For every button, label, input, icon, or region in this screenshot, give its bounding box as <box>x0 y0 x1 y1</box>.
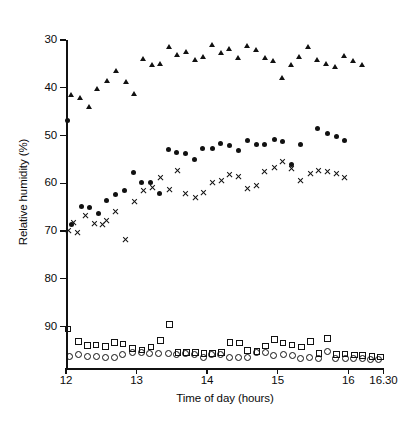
data-point-filled-triangle <box>157 61 163 66</box>
y-axis-tick <box>60 183 66 184</box>
data-point-open-circle <box>84 353 91 360</box>
data-point-cross <box>279 158 286 165</box>
data-point-open-square <box>148 344 155 351</box>
y-axis-tick-label: 30 <box>31 34 57 46</box>
data-point-filled-circle <box>210 146 215 151</box>
relative-humidity-scatter-chart: 30405060708090 121314151616.30 Relative … <box>0 0 419 424</box>
data-point-cross <box>324 168 331 175</box>
data-point-open-square <box>218 349 225 356</box>
data-point-open-square <box>262 343 269 350</box>
y-axis-tick-label: 70 <box>31 225 57 237</box>
data-point-cross <box>70 219 77 226</box>
data-point-filled-circle <box>227 143 232 148</box>
y-axis-tick-label: 60 <box>31 177 57 189</box>
data-point-open-square <box>342 351 349 358</box>
data-point-cross <box>182 190 189 197</box>
data-point-filled-circle <box>315 126 320 131</box>
data-point-filled-triangle <box>94 86 100 91</box>
data-point-open-square <box>102 343 109 350</box>
data-point-filled-circle <box>289 162 294 167</box>
data-point-cross <box>244 185 251 192</box>
data-point-filled-circle <box>174 150 179 155</box>
data-point-filled-triangle <box>359 62 365 67</box>
plot-area <box>0 0 419 424</box>
data-point-open-circle <box>367 356 374 363</box>
data-point-cross <box>131 198 138 205</box>
data-point-cross <box>218 177 225 184</box>
data-point-cross <box>166 186 173 193</box>
y-axis-title: Relative humidity (%) <box>17 127 29 257</box>
data-point-open-circle <box>102 354 109 361</box>
data-point-open-square <box>377 354 384 361</box>
data-point-open-square <box>289 342 296 349</box>
data-point-filled-circle <box>113 192 118 197</box>
data-point-cross <box>103 217 110 224</box>
y-axis-tick <box>60 326 66 327</box>
data-point-open-circle <box>208 351 215 358</box>
data-point-filled-circle <box>183 151 188 156</box>
data-point-open-circle <box>235 354 242 361</box>
data-point-filled-circle <box>342 138 347 143</box>
data-point-open-square <box>369 353 376 360</box>
y-axis-tick <box>60 230 66 231</box>
data-point-filled-circle <box>157 191 162 196</box>
data-point-open-square <box>157 337 164 344</box>
data-point-cross <box>82 212 89 219</box>
data-point-open-circle <box>226 354 233 361</box>
data-point-open-circle <box>289 352 296 359</box>
data-point-filled-triangle <box>296 54 302 59</box>
x-axis-tick-label: 15 <box>253 375 303 387</box>
data-point-open-circle <box>129 349 136 356</box>
y-axis-tick <box>60 39 66 40</box>
data-point-open-circle <box>375 356 382 363</box>
data-point-filled-circle <box>96 211 101 216</box>
data-point-filled-triangle <box>68 92 74 97</box>
data-point-filled-triangle <box>350 58 356 63</box>
data-point-open-circle <box>306 354 313 361</box>
data-point-filled-circle <box>122 188 127 193</box>
data-point-open-square <box>183 349 190 356</box>
data-point-filled-circle <box>334 134 339 139</box>
data-point-open-circle <box>146 350 153 357</box>
data-point-cross <box>288 165 295 172</box>
data-point-open-square <box>201 350 208 357</box>
data-point-cross <box>226 171 233 178</box>
data-point-filled-circle <box>325 131 330 136</box>
data-point-filled-circle <box>69 222 74 227</box>
data-point-open-square <box>333 351 340 358</box>
data-point-filled-circle <box>245 138 250 143</box>
data-point-open-circle <box>244 354 251 361</box>
data-point-filled-triangle <box>140 56 146 61</box>
data-point-cross <box>307 170 314 177</box>
data-point-cross <box>333 170 340 177</box>
data-point-cross <box>341 174 348 181</box>
data-point-filled-triangle <box>131 91 137 96</box>
data-point-filled-circle <box>192 157 197 162</box>
data-point-filled-triangle <box>218 50 224 55</box>
data-point-filled-circle <box>272 137 277 142</box>
data-point-cross <box>74 229 81 236</box>
data-point-filled-triangle <box>183 49 189 54</box>
data-point-open-circle <box>297 355 304 362</box>
x-axis-tick-label: 13 <box>112 375 162 387</box>
data-point-open-circle <box>119 351 126 358</box>
data-point-filled-triangle <box>192 57 198 62</box>
data-point-cross <box>315 167 322 174</box>
data-point-open-circle <box>332 355 339 362</box>
data-point-filled-triangle <box>209 42 215 47</box>
data-point-filled-triangle <box>200 54 206 59</box>
data-point-open-square <box>236 340 243 347</box>
x-axis-tick-label: 12 <box>41 375 91 387</box>
data-point-open-circle <box>280 351 287 358</box>
data-point-open-circle <box>262 349 269 356</box>
data-point-filled-circle <box>104 198 109 203</box>
data-point-filled-triangle <box>305 44 311 49</box>
data-point-open-square <box>166 321 173 328</box>
data-point-open-square <box>209 350 216 357</box>
data-point-filled-circle <box>166 147 171 152</box>
data-point-open-square <box>316 350 323 357</box>
data-point-open-circle <box>270 352 277 359</box>
data-point-filled-triangle <box>174 52 180 57</box>
data-point-filled-triangle <box>113 68 119 73</box>
data-point-filled-triangle <box>253 47 259 52</box>
